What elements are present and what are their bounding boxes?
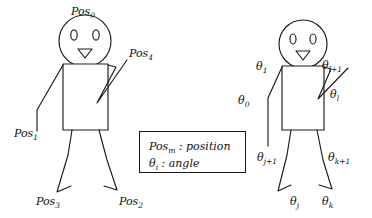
- label-theta-j: θj: [290, 196, 299, 207]
- label-theta-l-plus-1-sub: l+1: [329, 65, 342, 74]
- label-theta-j-sub: j: [297, 201, 299, 210]
- left-leg-right: [99, 130, 117, 190]
- left-leg-left: [57, 130, 72, 192]
- diagram-canvas: Pos0 Pos4 Pos1 Pos3 Pos2 θ1 θl+1 θl θ0 θ…: [0, 0, 372, 218]
- legend-position-line: Posm : position: [149, 141, 231, 152]
- label-theta-0-sub: 0: [245, 100, 250, 109]
- label-theta-1-sub: 1: [263, 66, 268, 75]
- right-torso: [282, 66, 324, 130]
- label-pos2: Pos2: [119, 196, 143, 207]
- label-pos3: Pos3: [36, 196, 60, 207]
- label-theta-k-plus-1-sub: k+1: [335, 157, 351, 166]
- label-theta-1-base: θ: [256, 60, 263, 73]
- right-eye-right-icon: [310, 34, 316, 44]
- label-pos3-base: Pos: [36, 195, 55, 208]
- label-theta-k-sub: k: [329, 201, 334, 210]
- label-pos2-sub: 2: [138, 201, 143, 210]
- label-theta-j-plus-1-base: θ: [257, 151, 264, 164]
- right-eye-left-icon: [290, 34, 296, 44]
- label-pos2-base: Pos: [119, 195, 138, 208]
- label-theta-l-base: θ: [330, 88, 337, 101]
- left-arm-left: [37, 65, 63, 131]
- label-theta-0: θ0: [238, 95, 249, 106]
- left-eye-left-icon: [71, 30, 77, 40]
- right-leg-left: [278, 130, 291, 191]
- left-eye-right-icon: [93, 30, 99, 40]
- legend-angle-sub: i: [156, 163, 158, 172]
- label-theta-k: θk: [322, 196, 333, 207]
- label-pos1-sub: 1: [33, 133, 38, 142]
- label-pos0: Pos0: [71, 6, 95, 17]
- label-pos0-sub: 0: [90, 11, 95, 20]
- label-theta-l-plus-1-base: θ: [322, 59, 329, 72]
- label-pos4-base: Pos: [129, 47, 148, 60]
- label-theta-1: θ1: [256, 61, 267, 72]
- label-theta-l-plus-1: θl+1: [322, 60, 342, 71]
- legend-position-sub: m: [168, 146, 175, 155]
- legend-angle-base: θ: [149, 157, 156, 170]
- label-pos1-base: Pos: [14, 127, 33, 140]
- legend-angle-line: θi : angle: [149, 158, 199, 169]
- label-pos4-sub: 4: [148, 53, 153, 62]
- label-pos1: Pos1: [14, 128, 38, 139]
- label-theta-j-plus-1: θj+1: [257, 152, 277, 163]
- label-theta-k-base: θ: [322, 195, 329, 208]
- label-theta-k-plus-1-base: θ: [328, 151, 335, 164]
- legend-angle-text: : angle: [158, 157, 199, 170]
- figure-drawing-layer: [0, 0, 372, 218]
- legend-position-text: : position: [175, 140, 230, 153]
- label-theta-l: θl: [330, 89, 339, 100]
- label-theta-l-sub: l: [337, 94, 339, 103]
- right-arm-left: [268, 67, 282, 146]
- label-pos3-sub: 3: [55, 201, 60, 210]
- label-theta-k-plus-1: θk+1: [328, 152, 350, 163]
- label-theta-j-base: θ: [290, 195, 297, 208]
- label-pos4: Pos4: [129, 48, 153, 59]
- left-figure-group: [37, 15, 127, 192]
- right-head-icon: [279, 20, 327, 68]
- legend-box: Posm : position θi : angle: [139, 131, 246, 173]
- label-pos0-base: Pos: [71, 5, 90, 18]
- legend-position-base: Pos: [149, 140, 168, 153]
- left-head-icon: [59, 15, 111, 67]
- label-theta-j-plus-1-sub: j+1: [264, 157, 277, 166]
- label-theta-0-base: θ: [238, 94, 245, 107]
